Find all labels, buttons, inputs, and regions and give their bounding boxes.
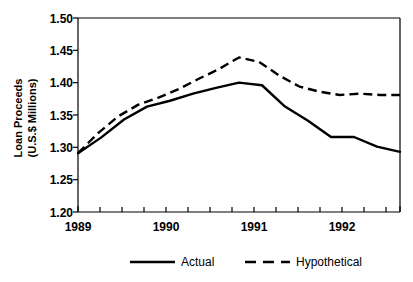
legend-label-hypothetical: Hypothetical	[296, 255, 362, 269]
x-tick-label: 1990	[153, 220, 180, 234]
x-tick-label: 1992	[329, 220, 356, 234]
chart-legend: Actual Hypothetical	[130, 255, 362, 269]
legend-label-actual: Actual	[181, 255, 214, 269]
y-tick-label: 1.45	[50, 44, 74, 58]
x-tick-labels: 1989 1990 1991 1992	[65, 220, 356, 234]
y-tick-label: 1.50	[50, 12, 74, 26]
y-tick-label: 1.35	[50, 109, 74, 123]
x-tick-label: 1989	[65, 220, 92, 234]
y-axis-title-line2: (U.S.$ Millions)	[26, 78, 38, 157]
y-tick-label: 1.40	[50, 76, 74, 90]
y-tick-label: 1.20	[50, 206, 74, 220]
line-chart: Loan Proceeds (U.S.$ Millions) 1.50 1.45…	[0, 0, 413, 282]
y-axis-title: Loan Proceeds (U.S.$ Millions)	[12, 78, 38, 157]
x-tick-label: 1991	[241, 220, 268, 234]
y-tick-label: 1.25	[50, 173, 74, 187]
plot-area	[78, 18, 400, 212]
y-tick-labels: 1.50 1.45 1.40 1.35 1.30 1.25 1.20	[50, 12, 74, 220]
chart-figure: Loan Proceeds (U.S.$ Millions) 1.50 1.45…	[0, 0, 413, 282]
y-tick-marks	[73, 18, 78, 212]
y-axis-title-line1: Loan Proceeds	[12, 79, 24, 158]
y-tick-label: 1.30	[50, 141, 74, 155]
